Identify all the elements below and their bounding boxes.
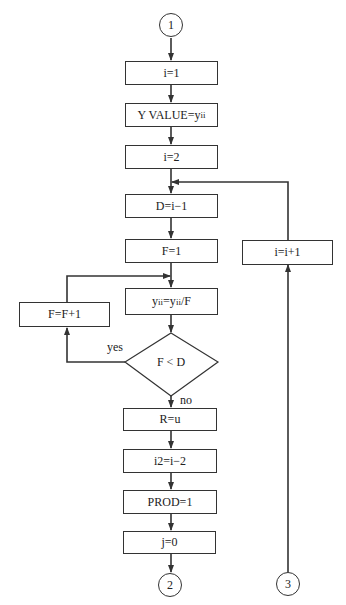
step-i2-assign-label: i2=i−2 bbox=[154, 454, 186, 469]
connector-start-label: 1 bbox=[168, 18, 174, 33]
step-yvalue-sub: ii bbox=[200, 110, 205, 120]
connector-end-main: 2 bbox=[158, 573, 182, 597]
step-d-assign: D=i−1 bbox=[125, 194, 218, 218]
ydiv-tail: /F bbox=[181, 294, 191, 309]
step-yvalue: Y VALUE=yii bbox=[125, 103, 218, 127]
step-yvalue-label: Y VALUE=y bbox=[138, 108, 201, 123]
step-j-init: j=0 bbox=[123, 531, 216, 554]
step-f-init-label: F=1 bbox=[162, 244, 181, 259]
step-i-init: i=1 bbox=[125, 61, 218, 85]
step-prod-init: PROD=1 bbox=[123, 490, 217, 514]
step-j-init-label: j=0 bbox=[161, 535, 177, 550]
step-prod-init-label: PROD=1 bbox=[148, 495, 193, 510]
decision-label: F < D bbox=[140, 352, 202, 372]
connector-end-loop-label: 3 bbox=[285, 577, 291, 592]
step-i-two-label: i=2 bbox=[163, 150, 179, 165]
edge-label-yes: yes bbox=[107, 340, 123, 355]
step-r-assign: R=u bbox=[123, 408, 217, 431]
step-f-init: F=1 bbox=[125, 239, 218, 263]
decision-text: F < D bbox=[157, 355, 185, 370]
step-r-assign-label: R=u bbox=[160, 412, 181, 427]
step-f-increment: F=F+1 bbox=[19, 302, 110, 327]
edge-label-no: no bbox=[180, 393, 192, 408]
step-i-increment: i=i+1 bbox=[242, 240, 333, 265]
connector-end-main-label: 2 bbox=[167, 578, 173, 593]
step-y-divide: yii=yii/F bbox=[125, 288, 218, 315]
ydiv-eq: =y bbox=[163, 294, 176, 309]
step-d-assign-label: D=i−1 bbox=[156, 199, 188, 214]
step-i-init-label: i=1 bbox=[163, 66, 179, 81]
step-i2-assign: i2=i−2 bbox=[123, 449, 217, 473]
step-f-increment-label: F=F+1 bbox=[48, 307, 81, 322]
step-i-two: i=2 bbox=[125, 145, 218, 169]
step-i-increment-label: i=i+1 bbox=[274, 245, 300, 260]
connector-end-loop: 3 bbox=[276, 572, 300, 596]
connector-start: 1 bbox=[159, 13, 183, 37]
